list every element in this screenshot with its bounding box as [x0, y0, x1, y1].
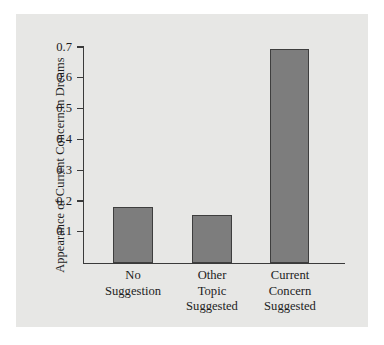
- y-tick-label-0.4: 0.4: [32, 133, 72, 145]
- x-category-line: Topic: [176, 284, 248, 300]
- bar-other-topic-suggested: [192, 215, 232, 263]
- y-tick-0.4: [77, 139, 83, 140]
- bar-no-suggestion: [113, 207, 153, 262]
- x-category-line: Suggested: [176, 299, 248, 315]
- x-category-line: Concern: [254, 284, 326, 300]
- y-tick-label-0.2: 0.2: [32, 195, 72, 207]
- x-category-line: No: [97, 268, 169, 284]
- y-tick-0.7: [77, 46, 83, 47]
- x-category-line: Current: [254, 268, 326, 284]
- bar-current-concern-suggested: [270, 49, 309, 263]
- y-tick-0.3: [77, 170, 83, 171]
- x-category-line: Suggestion: [97, 284, 169, 300]
- y-tick-label-0.7: 0.7: [32, 41, 72, 53]
- y-tick-0.5: [77, 108, 83, 109]
- y-tick-label-0.1: 0.1: [32, 225, 72, 237]
- y-tick-label-0.6: 0.6: [32, 71, 72, 83]
- x-category-label-current-concern-suggested: Current Concern Suggested: [254, 268, 326, 315]
- x-category-label-other-topic-suggested: Other Topic Suggested: [176, 268, 248, 315]
- y-tick-0.2: [77, 200, 83, 201]
- y-axis-line: [83, 46, 84, 264]
- x-category-line: Other: [176, 268, 248, 284]
- y-tick-label-0.5: 0.5: [32, 102, 72, 114]
- chart-panel: Appearance of Current Concern in Dreams …: [16, 14, 368, 327]
- x-axis-line: [83, 263, 345, 264]
- x-category-line: Suggested: [254, 299, 326, 315]
- y-tick-0.1: [77, 231, 83, 232]
- y-tick-0.6: [77, 77, 83, 78]
- x-category-label-no-suggestion: No Suggestion: [97, 268, 169, 299]
- y-tick-label-0.3: 0.3: [32, 164, 72, 176]
- plot-area: 0.7 0.6 0.5 0.4 0.3 0.2 0.1 No Suggestio…: [16, 14, 368, 327]
